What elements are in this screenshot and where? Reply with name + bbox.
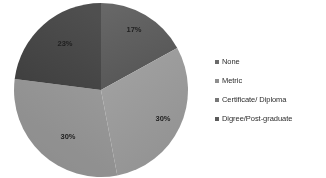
legend-swatch-square-icon xyxy=(215,98,219,102)
legend-item-4[interactable]: Digree/Post-graduate xyxy=(215,111,323,126)
pie-chart-figure: 17%30%30%23% NoneMetricCertificate/ Dipl… xyxy=(0,0,326,178)
pie-slice-label-4: 23% xyxy=(57,39,72,48)
legend-item-1[interactable]: None xyxy=(215,54,323,69)
legend-swatch-square-icon xyxy=(215,117,219,121)
legend-swatch-square-icon xyxy=(215,79,219,83)
legend-item-label: Metric xyxy=(222,76,242,85)
legend-item-label: Certificate/ Diploma xyxy=(222,95,286,104)
pie-slice-label-3: 30% xyxy=(60,132,75,141)
pie-slice-label-2: 30% xyxy=(155,114,170,123)
pie-slice-label-1: 17% xyxy=(126,25,141,34)
legend-item-2[interactable]: Metric xyxy=(215,73,323,88)
pie-chart-plot-area: 17%30%30%23% xyxy=(13,2,189,178)
legend-item-label: Digree/Post-graduate xyxy=(222,114,292,123)
legend-swatch-square-icon xyxy=(215,60,219,64)
chart-legend: NoneMetricCertificate/ DiplomaDigree/Pos… xyxy=(215,54,323,130)
legend-item-label: None xyxy=(222,57,240,66)
pie-slices xyxy=(14,3,188,177)
pie-svg: 17%30%30%23% xyxy=(13,2,189,178)
legend-item-3[interactable]: Certificate/ Diploma xyxy=(215,92,323,107)
